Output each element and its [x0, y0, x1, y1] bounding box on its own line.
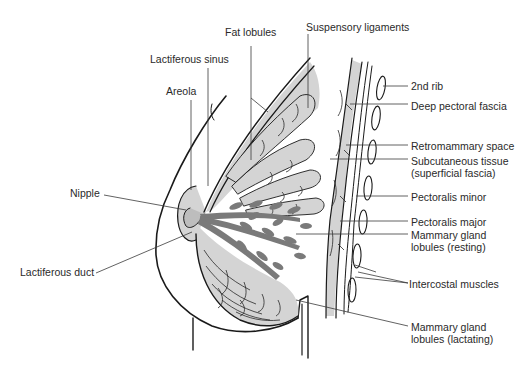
- label-mammary-gland-lobules-resting: Mammary gland lobules (resting): [411, 229, 486, 253]
- label-lactiferous-duct: Lactiferous duct: [20, 266, 94, 278]
- label-mammary-gland-lobules-lactating: Mammary gland lobules (lactating): [411, 321, 493, 345]
- label-deep-pectoral-fascia: Deep pectoral fascia: [411, 100, 507, 112]
- leader-nipple: [104, 195, 186, 210]
- leader-lactiferous-duct: [96, 232, 192, 273]
- leader-intercostal-muscles: [358, 272, 408, 283]
- chest-wall: [326, 58, 387, 318]
- label-intercostal-muscles: Intercostal muscles: [409, 278, 499, 290]
- label-nipple: Nipple: [70, 187, 100, 199]
- label-pectoralis-minor: Pectoralis minor: [411, 191, 486, 203]
- label-retromammary-space: Retromammary space: [411, 140, 514, 152]
- label-second-rib: 2nd rib: [411, 80, 443, 92]
- upper-fat-lobules: [204, 58, 324, 216]
- label-suspensory-ligaments: Suspensory ligaments: [306, 21, 409, 33]
- leader-lactating-lobules: [296, 300, 408, 326]
- anatomy-illustration: [0, 0, 529, 372]
- label-lactiferous-sinus: Lactiferous sinus: [150, 53, 229, 65]
- label-subcutaneous-tissue: Subcutaneous tissue (superficial fascia): [411, 155, 508, 179]
- breast-anatomy-diagram: Fat lobules Suspensory ligaments Lactife…: [0, 0, 529, 372]
- label-fat-lobules: Fat lobules: [225, 26, 276, 38]
- label-areola: Areola: [166, 85, 196, 97]
- label-pectoralis-major: Pectoralis major: [411, 216, 486, 228]
